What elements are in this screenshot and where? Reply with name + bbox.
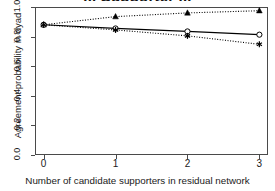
series-circle-series [41,22,262,37]
y-tick-label: 0.6 [6,60,28,70]
x-tick-label: 3 [249,158,269,169]
chart-title: ... Supporter ... [0,0,275,1]
y-tick-label: 0.8 [6,31,28,41]
plot-area [35,7,268,155]
data-point-asterisk [257,41,262,47]
data-point-circle-open [257,32,262,37]
series-line [44,25,260,45]
x-tick-label: 1 [106,158,126,169]
x-tick-label: 0 [34,158,54,169]
series-line [44,25,260,35]
series-asterisk-series [41,22,262,48]
series-line [44,11,260,25]
x-axis-label: Number of candidate supporters in residu… [0,175,275,186]
x-tick-label: 2 [177,158,197,169]
y-tick-mark [31,155,35,156]
series-triangle-series [41,8,262,27]
y-tick-label: 1.0 [6,1,28,11]
y-tick-label: 0.2 [6,119,28,129]
chart-screenshot: ... Supporter ... Agreement probability … [0,0,275,191]
y-tick-label: 0.0 [6,149,28,159]
data-point-triangle [113,14,119,19]
y-tick-label: 0.4 [6,90,28,100]
data-point-triangle [257,8,263,13]
